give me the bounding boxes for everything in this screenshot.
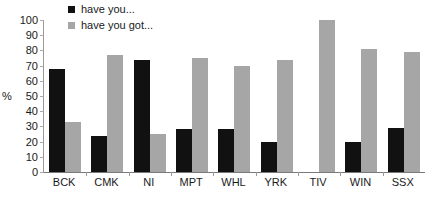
y-tick-label: 0	[32, 167, 38, 178]
x-tick-label: TIV	[297, 176, 339, 189]
y-axis-tick	[40, 157, 44, 158]
y-axis-tick	[40, 66, 44, 67]
y-axis-tick	[40, 20, 44, 21]
bar-group	[129, 20, 171, 172]
bar-groups	[44, 20, 425, 172]
bar-group	[213, 20, 255, 172]
plot-area	[43, 20, 425, 173]
bar[interactable]	[261, 142, 277, 172]
y-axis-tick	[40, 126, 44, 127]
y-tick-label: 10	[26, 151, 38, 162]
bar-group	[256, 20, 298, 172]
y-axis-tick	[40, 81, 44, 82]
y-tick-label: 60	[26, 75, 38, 86]
bar[interactable]	[234, 66, 250, 172]
y-tick-label: 80	[26, 45, 38, 56]
y-axis-tick	[40, 96, 44, 97]
bar[interactable]	[150, 134, 166, 172]
y-tick-label: 40	[26, 106, 38, 117]
bar[interactable]	[404, 52, 420, 172]
y-tick-label: 100	[20, 15, 38, 26]
bar[interactable]	[49, 69, 65, 172]
y-axis-tick	[40, 35, 44, 36]
y-tick-label: 20	[26, 136, 38, 147]
x-tick-label: WIN	[339, 176, 381, 189]
bar[interactable]	[192, 58, 208, 172]
bar[interactable]	[218, 129, 234, 172]
bar-chart: have you... have you got... 010203040506…	[0, 0, 430, 207]
bar[interactable]	[91, 136, 107, 172]
bar[interactable]	[65, 122, 81, 172]
x-tick-label: MPT	[170, 176, 212, 189]
y-tick-label: 30	[26, 121, 38, 132]
x-tick-label: CMK	[85, 176, 127, 189]
bar[interactable]	[361, 49, 377, 172]
y-axis-labels: 0102030405060708090100%	[0, 20, 41, 172]
bar[interactable]	[176, 129, 192, 172]
y-axis-tick	[40, 111, 44, 112]
x-tick-label: SSX	[382, 176, 424, 189]
y-axis-tick	[40, 142, 44, 143]
bar[interactable]	[319, 20, 335, 172]
x-tick-label: YRK	[255, 176, 297, 189]
x-axis-labels: BCKCMKNIMPTWHLYRKTIVWINSSX	[43, 176, 424, 189]
x-tick-label: NI	[128, 176, 170, 189]
legend-item-have-you[interactable]: have you...	[68, 3, 153, 16]
bar[interactable]	[345, 142, 361, 172]
y-axis-tick	[40, 50, 44, 51]
y-axis-unit-label: %	[2, 91, 38, 102]
bar[interactable]	[388, 128, 404, 172]
bar-group	[171, 20, 213, 172]
bar-group	[298, 20, 340, 172]
y-tick-label: 90	[26, 30, 38, 41]
legend-swatch-series-0	[68, 6, 75, 13]
y-axis-tick	[40, 172, 44, 173]
legend-label-series-0: have you...	[81, 4, 135, 15]
bar-group	[44, 20, 86, 172]
x-tick-label: BCK	[43, 176, 85, 189]
bar-group	[383, 20, 425, 172]
x-tick-label: WHL	[212, 176, 254, 189]
y-tick-label: 70	[26, 60, 38, 71]
bar[interactable]	[134, 60, 150, 172]
bar[interactable]	[277, 60, 293, 172]
bar-group	[340, 20, 382, 172]
bar-group	[86, 20, 128, 172]
bar[interactable]	[107, 55, 123, 172]
